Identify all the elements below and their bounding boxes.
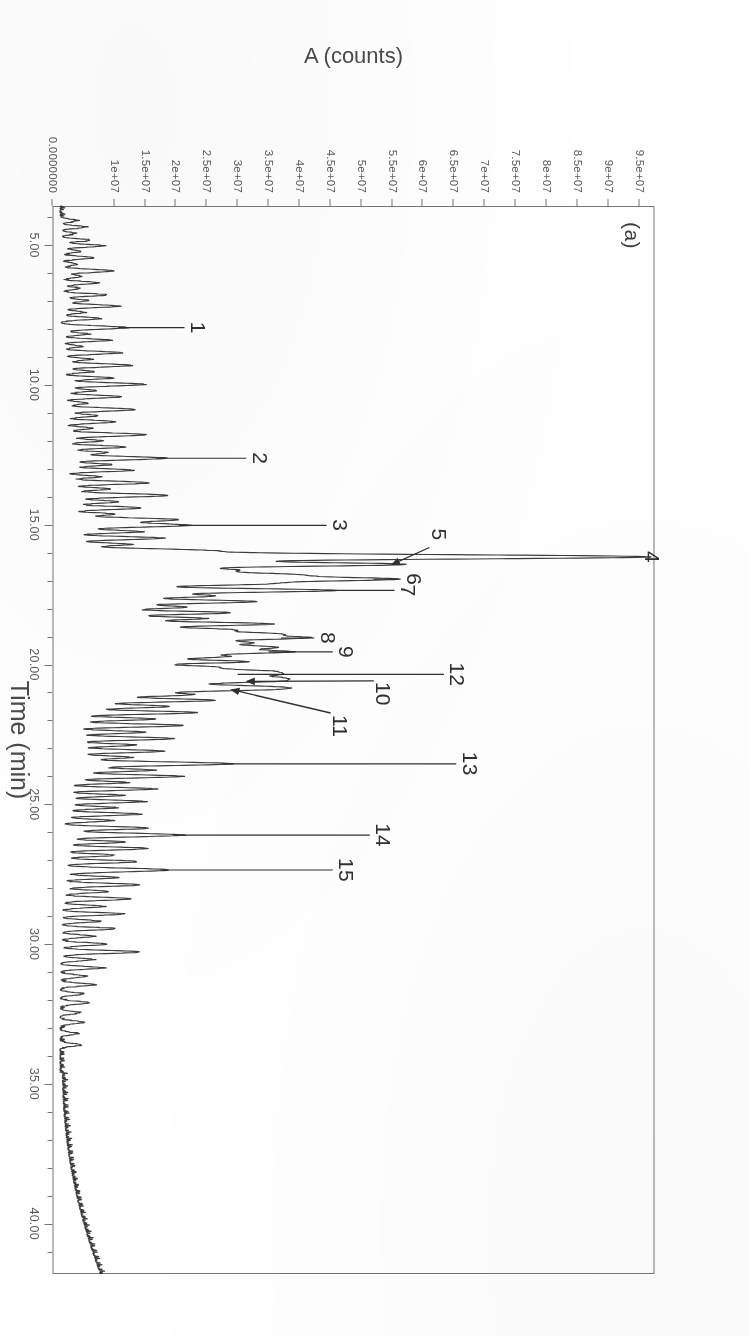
- x-minor-tick: [48, 637, 53, 638]
- y-tick-label: 1e+07: [108, 0, 120, 193]
- x-tick-label: 10.00: [26, 369, 40, 401]
- chromatogram-trace: [52, 206, 654, 1274]
- x-minor-tick: [48, 469, 53, 470]
- x-minor-tick: [48, 692, 53, 693]
- x-minor-tick: [48, 1028, 53, 1029]
- figure-root: (a) 5.0010.0015.0020.0025.0030.0035.0040…: [0, 0, 749, 1336]
- x-minor-tick: [48, 1112, 53, 1113]
- x-tick-label: 20.00: [26, 648, 40, 680]
- x-minor-tick: [48, 1140, 53, 1141]
- peak-label-12: 12: [444, 662, 468, 686]
- peak-label-6: 6: [401, 573, 425, 585]
- x-major-tick: [44, 1224, 52, 1225]
- y-tick-label: 7e+07: [478, 0, 490, 193]
- peak-label-1: 1: [185, 322, 209, 334]
- x-minor-tick: [48, 916, 53, 917]
- chart-rotation-wrapper: (a) 5.0010.0015.0020.0025.0030.0035.0040…: [0, 0, 749, 1336]
- peak-label-10: 10: [370, 682, 394, 706]
- y-major-tick: [607, 199, 608, 206]
- x-tick-label: 15.00: [26, 509, 40, 541]
- y-major-tick: [298, 199, 299, 206]
- y-tick-label: 9e+07: [602, 0, 614, 193]
- x-tick-label: 30.00: [26, 928, 40, 960]
- y-tick-label: 5.5e+07: [386, 0, 398, 193]
- y-major-tick: [51, 199, 52, 206]
- peak-label-15: 15: [333, 858, 357, 882]
- y-tick-label: 9.5e+07: [633, 0, 645, 193]
- y-major-tick: [421, 199, 422, 206]
- y-tick-label: 8e+07: [540, 0, 552, 193]
- y-major-tick: [452, 199, 453, 206]
- peak-label-14: 14: [370, 823, 394, 847]
- y-tick-label: 6.5e+07: [447, 0, 459, 193]
- x-minor-tick: [48, 720, 53, 721]
- x-tick-label: 40.00: [26, 1208, 40, 1240]
- y-major-tick: [391, 199, 392, 206]
- y-tick-label: 0.0000000: [46, 0, 58, 193]
- y-major-tick: [545, 199, 546, 206]
- peak-label-4: 4: [639, 551, 663, 563]
- y-tick-label: 6e+07: [416, 0, 428, 193]
- peak-label-5: 5: [426, 529, 450, 541]
- x-minor-tick: [48, 1252, 53, 1253]
- x-minor-tick: [48, 1000, 53, 1001]
- x-major-tick: [44, 525, 52, 526]
- x-minor-tick: [48, 748, 53, 749]
- y-tick-label: 1.5e+07: [139, 0, 151, 193]
- y-major-tick: [205, 199, 206, 206]
- x-minor-tick: [48, 413, 53, 414]
- y-major-tick: [175, 199, 176, 206]
- y-tick-label: 3e+07: [231, 0, 243, 193]
- y-major-tick: [638, 199, 639, 206]
- x-minor-tick: [48, 1168, 53, 1169]
- x-minor-tick: [48, 553, 53, 554]
- x-minor-tick: [48, 972, 53, 973]
- y-major-tick: [483, 199, 484, 206]
- y-tick-label: 2.5e+07: [200, 0, 212, 193]
- y-tick-label: 3.5e+07: [262, 0, 274, 193]
- chromatogram-chart: (a) 5.0010.0015.0020.0025.0030.0035.0040…: [0, 0, 749, 1336]
- peak-label-9: 9: [333, 646, 357, 658]
- x-minor-tick: [48, 301, 53, 302]
- x-minor-tick: [48, 832, 53, 833]
- y-tick-label: 8.5e+07: [571, 0, 583, 193]
- y-major-tick: [360, 199, 361, 206]
- x-tick-label: 5.00: [26, 233, 40, 258]
- peak-label-13: 13: [457, 752, 481, 776]
- peak-label-2: 2: [247, 452, 271, 464]
- x-major-tick: [44, 665, 52, 666]
- y-major-tick: [267, 199, 268, 206]
- trace-path: [59, 206, 650, 1274]
- x-minor-tick: [48, 441, 53, 442]
- x-minor-tick: [48, 1196, 53, 1197]
- y-tick-label: 4e+07: [293, 0, 305, 193]
- y-major-tick: [576, 199, 577, 206]
- y-major-tick: [514, 199, 515, 206]
- y-axis-title: A (counts): [303, 43, 402, 69]
- x-minor-tick: [48, 776, 53, 777]
- x-minor-tick: [48, 888, 53, 889]
- x-minor-tick: [48, 609, 53, 610]
- y-major-tick: [113, 199, 114, 206]
- y-tick-label: 4.5e+07: [324, 0, 336, 193]
- y-major-tick: [236, 199, 237, 206]
- x-minor-tick: [48, 860, 53, 861]
- x-axis-title: Time (min): [4, 681, 33, 800]
- x-minor-tick: [48, 497, 53, 498]
- x-tick-label: 35.00: [26, 1068, 40, 1100]
- y-tick-label: 5e+07: [355, 0, 367, 193]
- y-tick-label: 2e+07: [170, 0, 182, 193]
- x-major-tick: [44, 245, 52, 246]
- x-minor-tick: [48, 1056, 53, 1057]
- x-major-tick: [44, 1084, 52, 1085]
- peak-label-8: 8: [315, 632, 339, 644]
- x-major-tick: [44, 385, 52, 386]
- x-minor-tick: [48, 273, 53, 274]
- x-minor-tick: [48, 581, 53, 582]
- x-minor-tick: [48, 217, 53, 218]
- peak-label-3: 3: [327, 519, 351, 531]
- y-tick-label: 7.5e+07: [509, 0, 521, 193]
- peak-label-11: 11: [327, 715, 351, 737]
- x-minor-tick: [48, 357, 53, 358]
- y-major-tick: [329, 199, 330, 206]
